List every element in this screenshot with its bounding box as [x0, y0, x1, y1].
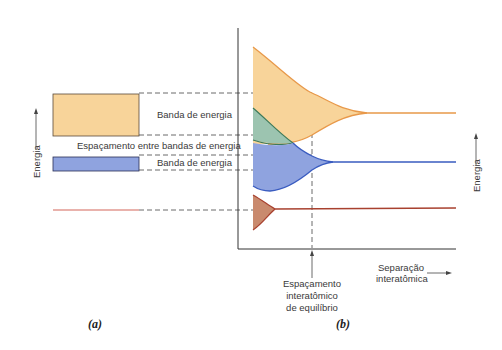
x-axis-label-2: interatômica: [376, 273, 428, 284]
equilibrium-label-3: de equilíbrio: [286, 302, 338, 313]
energy-axis-label-b: Energia: [471, 133, 482, 192]
equilibrium-label-2: interatômico: [286, 290, 338, 301]
panel-b: Energia Espaçamento interatômico de equi…: [238, 28, 482, 331]
core-level-top-curve: [253, 195, 456, 209]
upper-band-region: [253, 47, 456, 144]
upper-band-label: Banda de energia: [157, 109, 233, 120]
lower-band-region: [253, 143, 456, 191]
energy-band-diagram: Energia Banda de energia Espaçamento ent…: [0, 0, 502, 350]
core-level-region: [253, 195, 456, 230]
energy-label-a: Energia: [31, 145, 42, 178]
x-axis-label-1: Separação: [378, 262, 424, 273]
lower-energy-band: [53, 157, 139, 171]
band-gap-label: Espaçamento entre bandas de energia: [77, 140, 241, 151]
arrow-head-icon: [474, 133, 478, 139]
arrow-head-icon: [310, 250, 314, 256]
lower-band-label: Banda de energia: [157, 157, 233, 168]
equilibrium-label-1: Espaçamento: [283, 278, 341, 289]
arrow-head-icon: [446, 271, 452, 275]
arrow-head-icon: [34, 108, 38, 114]
caption-a: (a): [88, 317, 102, 331]
caption-b: (b): [336, 317, 350, 331]
panel-a: Energia Banda de energia Espaçamento ent…: [31, 94, 241, 331]
energy-axis-label-a: Energia: [31, 108, 42, 178]
upper-energy-band: [53, 94, 139, 136]
energy-label-b: Energia: [471, 159, 482, 192]
